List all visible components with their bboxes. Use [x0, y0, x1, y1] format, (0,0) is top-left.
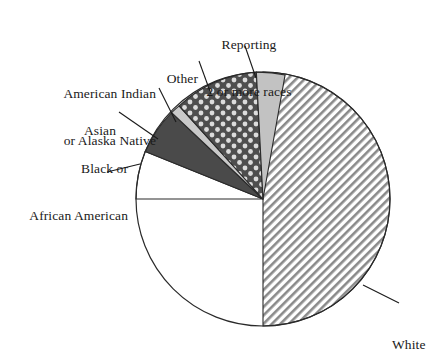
- pie-chart-figure: Reporting 2 or more races Other American…: [0, 0, 439, 351]
- pie-label-white-text: White: [392, 337, 438, 351]
- pie-label-black-line2: African American: [12, 208, 128, 224]
- pie-label-reporting-2-or-more-races: Reporting 2 or more races: [189, 6, 309, 130]
- pie-label-black-line1: Black or: [12, 161, 128, 177]
- pie-label-reporting-line1: Reporting: [189, 37, 309, 53]
- pie-label-black-or-african-american: Black or African American: [12, 130, 128, 254]
- pie-label-reporting-line2: 2 or more races: [189, 84, 309, 100]
- pie-label-white: White: [392, 306, 438, 351]
- leader-line-white: [363, 285, 399, 303]
